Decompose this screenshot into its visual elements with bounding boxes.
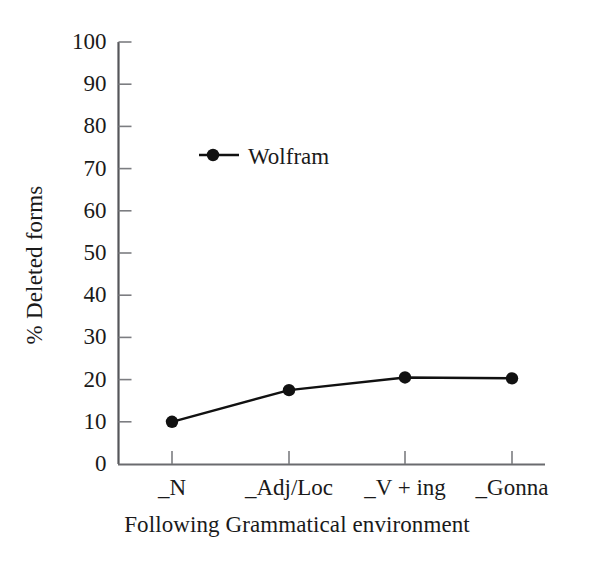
y-axis-tick-label: 60 <box>51 199 107 222</box>
y-axis-ticks <box>119 42 132 422</box>
chart-container: % Deleted forms Wolfram 0102030405060708… <box>0 0 594 566</box>
data-point-marker <box>283 384 295 396</box>
y-axis-tick-label: 100 <box>51 30 107 53</box>
data-point-marker <box>166 416 178 428</box>
data-point-marker <box>506 372 518 384</box>
series-markers-wolfram <box>166 371 518 428</box>
legend-label-wolfram: Wolfram <box>248 145 329 168</box>
y-axis-tick-label: 40 <box>51 283 107 306</box>
y-axis-tick-label: 0 <box>51 452 107 475</box>
x-axis-title: Following Grammatical environment <box>0 512 594 538</box>
series-layer <box>166 371 518 428</box>
y-axis-tick-label: 10 <box>51 410 107 433</box>
x-axis-tick-label: _N <box>158 476 186 499</box>
y-axis-tick-label: 20 <box>51 368 107 391</box>
series-line-wolfram <box>172 377 512 421</box>
y-axis-tick-label: 70 <box>51 157 107 180</box>
x-axis-tick-label: _V + ing <box>364 476 446 499</box>
x-axis-ticks <box>172 451 512 464</box>
axis-lines <box>118 42 545 465</box>
y-axis-tick-label: 80 <box>51 114 107 137</box>
x-axis-tick-label: _Adj/Loc <box>245 476 333 499</box>
x-axis-tick-label: _Gonna <box>476 476 549 499</box>
legend-symbol-wolfram <box>199 149 239 161</box>
y-axis-tick-label: 90 <box>51 72 107 95</box>
y-axis-tick-label: 50 <box>51 241 107 264</box>
legend-marker-icon <box>207 149 219 161</box>
data-point-marker <box>399 371 411 383</box>
y-axis-tick-label: 30 <box>51 325 107 348</box>
